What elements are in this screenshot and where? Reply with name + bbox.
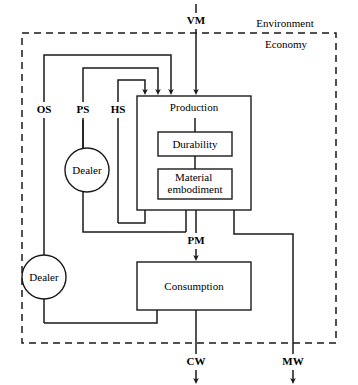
- dealer-lower-label: Dealer: [29, 271, 59, 283]
- flow-label-vm-top: VM: [187, 14, 206, 26]
- environment-zone-label: Environment: [256, 17, 313, 29]
- connector-hs-return-hook: [118, 210, 145, 223]
- consumption-label: Consumption: [164, 280, 224, 292]
- flow-diagram-canvas: Environment Economy Production Durabilit…: [0, 0, 358, 385]
- material-embodiment-label-line1: Material: [175, 171, 212, 183]
- economy-zone-label: Economy: [265, 38, 308, 50]
- flow-label-hs-top: HS: [111, 103, 126, 115]
- production-label: Production: [170, 101, 219, 113]
- economy-environment-diagram: Environment Economy Production Durabilit…: [0, 0, 358, 385]
- material-embodiment-label-line2: embodiment: [168, 183, 223, 195]
- flow-label-pm-top: PM: [187, 234, 205, 246]
- durability-label: Durability: [172, 138, 218, 150]
- connector-consumption-to-dealer-lower: [44, 310, 157, 323]
- material-embodiment-label: Material embodiment: [168, 171, 223, 195]
- flow-label-mw-top: MW: [282, 355, 303, 367]
- flow-label-ps-top: PS: [77, 103, 90, 115]
- flow-label-cw-top: CW: [187, 355, 206, 367]
- flow-label-os-top: OS: [37, 103, 52, 115]
- dealer-upper-label: Dealer: [72, 164, 102, 176]
